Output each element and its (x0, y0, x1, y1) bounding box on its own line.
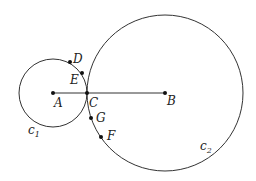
point-e (80, 71, 84, 75)
point-c (85, 91, 89, 95)
point-d (68, 60, 72, 64)
point-f (99, 135, 103, 139)
label-g: G (96, 111, 106, 125)
label-c: C (89, 96, 98, 110)
label-c1: c1 (28, 123, 40, 139)
point-a (51, 91, 55, 95)
label-a: A (53, 96, 63, 110)
label-d: D (72, 52, 83, 66)
label-e: E (69, 73, 79, 87)
label-b: B (166, 94, 176, 108)
point-g (89, 116, 93, 120)
label-c2: c2 (200, 139, 212, 155)
tangent-circles-diagram: A B C D E G F c1 c2 (0, 0, 256, 181)
label-f: F (106, 129, 116, 143)
